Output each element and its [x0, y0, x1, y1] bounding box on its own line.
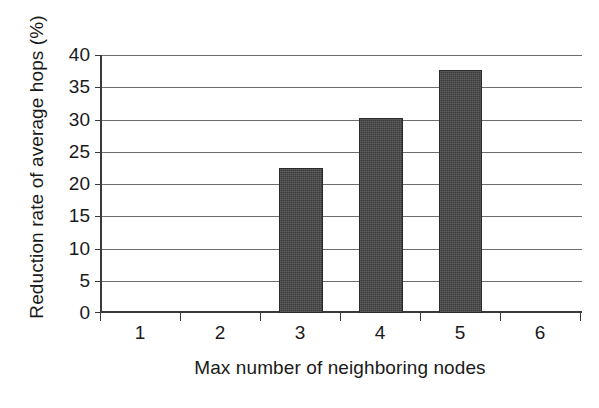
x-tick-label-5: 5: [420, 322, 500, 344]
x-tick-mark-1: [180, 313, 181, 321]
y-tick-label-35: 35: [52, 76, 90, 98]
y-tick-mark-20: [95, 184, 102, 185]
x-tick-mark-5: [500, 313, 501, 321]
bar-chart-figure: Reduction rate of average hops (%) 40 35…: [0, 0, 599, 408]
y-tick-mark-15: [95, 216, 102, 217]
x-tick-mark-6: [580, 313, 581, 321]
x-axis-baseline: [102, 311, 582, 313]
gridline-10: [102, 249, 582, 250]
y-axis-title: Reduction rate of average hops (%): [26, 12, 48, 322]
x-tick-label-3: 3: [260, 322, 340, 344]
gridline-40: [102, 55, 582, 56]
y-tick-mark-35: [95, 87, 102, 88]
bar-category-3: [279, 168, 323, 313]
y-tick-label-10: 10: [52, 238, 90, 260]
gridline-30: [102, 120, 582, 121]
y-tick-label-15: 15: [52, 205, 90, 227]
x-tick-mark-4: [420, 313, 421, 321]
gridline-15: [102, 216, 582, 217]
y-tick-label-40: 40: [52, 44, 90, 66]
y-tick-mark-5: [95, 281, 102, 282]
gridline-35: [102, 87, 582, 88]
y-tick-mark-10: [95, 249, 102, 250]
x-tick-label-6: 6: [500, 322, 580, 344]
plot-area: [100, 55, 580, 313]
y-tick-label-20: 20: [52, 173, 90, 195]
x-tick-label-1: 1: [100, 322, 180, 344]
x-tick-mark-3: [340, 313, 341, 321]
gridline-20: [102, 184, 582, 185]
y-tick-label-30: 30: [52, 109, 90, 131]
gridline-25: [102, 152, 582, 153]
y-tick-mark-30: [95, 120, 102, 121]
bar-category-4: [359, 118, 403, 313]
y-tick-mark-25: [95, 152, 102, 153]
y-tick-label-5: 5: [52, 270, 90, 292]
bar-category-5: [439, 70, 483, 313]
y-tick-mark-40: [95, 55, 102, 56]
x-tick-label-4: 4: [340, 322, 420, 344]
x-tick-mark-2: [260, 313, 261, 321]
x-tick-mark-0: [100, 313, 101, 321]
x-tick-label-2: 2: [180, 322, 260, 344]
y-tick-label-25: 25: [52, 141, 90, 163]
x-axis-title: Max number of neighboring nodes: [100, 357, 580, 379]
y-tick-label-0: 0: [52, 302, 90, 324]
gridline-5: [102, 281, 582, 282]
